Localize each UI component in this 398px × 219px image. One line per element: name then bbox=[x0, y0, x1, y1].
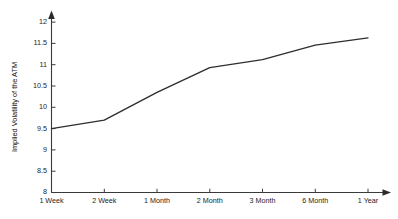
x-tick-label-2-week: 2 Week bbox=[92, 196, 117, 205]
y-axis-title: Implied Volatility of the ATM bbox=[10, 62, 19, 152]
y-tick-label-10: 10 bbox=[39, 102, 47, 111]
x-tick-label-1-year: 1 Year bbox=[358, 196, 379, 205]
y-tick-label-11: 11 bbox=[40, 60, 47, 69]
y-tick-label-10-5: 10.5 bbox=[33, 81, 47, 90]
chart-background bbox=[0, 0, 398, 219]
x-tick-label-3-month: 3 Month bbox=[250, 196, 276, 205]
y-tick-label-9: 9 bbox=[43, 145, 47, 154]
y-tick-label-9-5: 9.5 bbox=[37, 124, 47, 133]
implied-volatility-line-chart: 8 8.5 9 9.5 10 10.5 11 11.5 12 1 Week 2 … bbox=[0, 0, 398, 219]
chart-container: 8 8.5 9 9.5 10 10.5 11 11.5 12 1 Week 2 … bbox=[0, 0, 398, 219]
y-tick-label-12: 12 bbox=[39, 17, 47, 26]
x-tick-label-6-month: 6 Month bbox=[302, 196, 328, 205]
y-tick-label-11-5: 11.5 bbox=[34, 38, 47, 47]
x-tick-label-1-month: 1 Month bbox=[144, 196, 170, 205]
x-tick-label-2-month: 2 Month bbox=[197, 196, 223, 205]
x-tick-label-1-week: 1 Week bbox=[39, 196, 64, 205]
y-tick-label-8-5: 8.5 bbox=[37, 166, 47, 175]
